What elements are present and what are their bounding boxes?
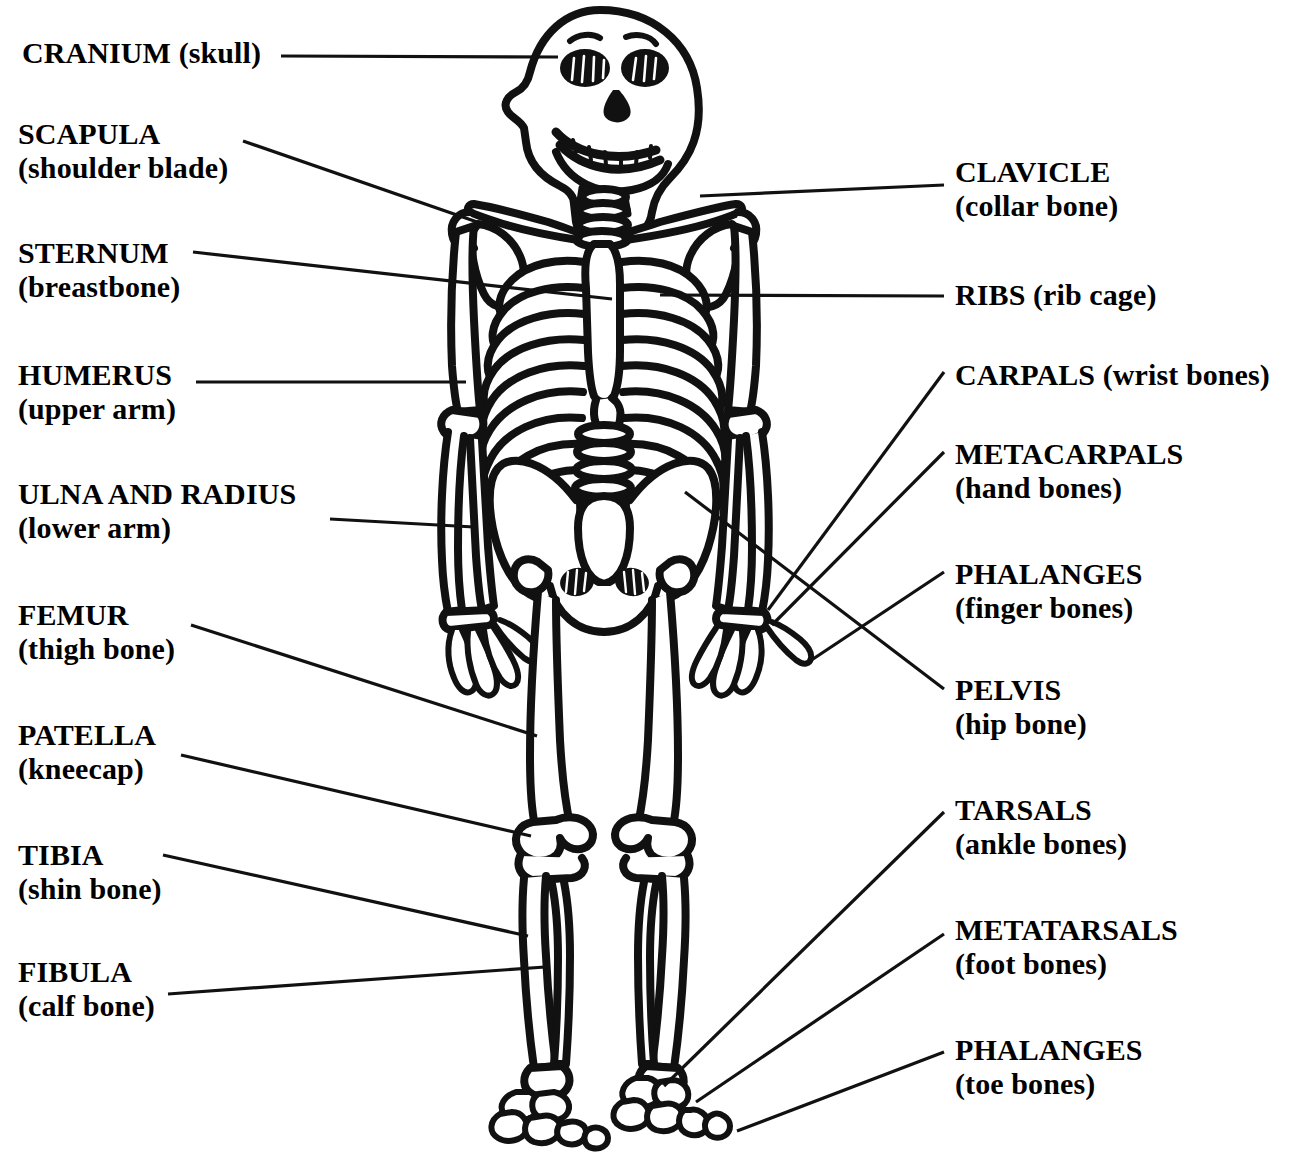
- label-common-ulna-radius: (lower arm): [18, 511, 296, 545]
- label-common-phalanges-fingers: (finger bones): [955, 591, 1143, 625]
- label-common-metatarsals: (foot bones): [955, 947, 1178, 981]
- label-humerus: HUMERUS(upper arm): [18, 358, 176, 425]
- label-common-tibia: (shin bone): [18, 872, 162, 906]
- leader-line-scapula: [243, 141, 480, 223]
- label-term-fibula: FIBULA: [18, 955, 155, 989]
- label-common-tarsals: (ankle bones): [955, 827, 1127, 861]
- label-common-cranium: (skull): [179, 36, 261, 69]
- label-term-metatarsals: METATARSALS: [955, 913, 1178, 947]
- label-common-phalanges-toes: (toe bones): [955, 1067, 1143, 1101]
- label-term-femur: FEMUR: [18, 598, 175, 632]
- label-common-scapula: (shoulder blade): [18, 151, 228, 185]
- label-clavicle: CLAVICLE(collar bone): [955, 155, 1118, 222]
- label-fibula: FIBULA(calf bone): [18, 955, 155, 1022]
- label-term-clavicle: CLAVICLE: [955, 155, 1118, 189]
- label-metacarpals: METACARPALS(hand bones): [955, 437, 1183, 504]
- label-term-ribs: RIBS (rib cage): [955, 278, 1156, 311]
- label-term-ulna-radius: ULNA AND RADIUS: [18, 477, 296, 511]
- label-term-cranium: CRANIUM: [22, 36, 171, 69]
- label-ribs: RIBS (rib cage): [955, 278, 1156, 312]
- leader-line-phalanges-toes: [737, 1052, 944, 1131]
- label-common-femur: (thigh bone): [18, 632, 175, 666]
- leader-line-clavicle: [700, 185, 944, 196]
- leader-line-tarsals: [664, 812, 944, 1086]
- label-phalanges-fingers: PHALANGES(finger bones): [955, 557, 1143, 624]
- label-common-patella: (kneecap): [18, 752, 156, 786]
- leader-line-tibia: [163, 855, 528, 936]
- label-common-clavicle: (collar bone): [955, 189, 1118, 223]
- leader-line-ribs: [660, 295, 944, 296]
- leader-line-cranium: [281, 56, 558, 57]
- label-term-metacarpals: METACARPALS: [955, 437, 1183, 471]
- label-tibia: TIBIA(shin bone): [18, 838, 162, 905]
- label-term-tarsals: TARSALS: [955, 793, 1127, 827]
- label-term-phalanges-toes: PHALANGES: [955, 1033, 1143, 1067]
- label-sternum: STERNUM(breastbone): [18, 236, 180, 303]
- label-term-scapula: SCAPULA: [18, 117, 228, 151]
- label-ulna-radius: ULNA AND RADIUS(lower arm): [18, 477, 296, 544]
- label-term-carpals: CARPALS (wrist bones): [955, 358, 1270, 391]
- label-tarsals: TARSALS(ankle bones): [955, 793, 1127, 860]
- label-term-sternum: STERNUM: [18, 236, 180, 270]
- label-pelvis: PELVIS(hip bone): [955, 673, 1087, 740]
- leader-line-phalanges-fingers: [807, 572, 944, 663]
- label-common-pelvis: (hip bone): [955, 707, 1087, 741]
- label-common-fibula: (calf bone): [18, 989, 155, 1023]
- skeleton-diagram-page: CRANIUM (skull)SCAPULA(shoulder blade)ST…: [0, 0, 1306, 1175]
- label-common-sternum: (breastbone): [18, 270, 180, 304]
- label-cranium: CRANIUM (skull): [22, 36, 261, 70]
- label-term-tibia: TIBIA: [18, 838, 162, 872]
- label-common-humerus: (upper arm): [18, 392, 176, 426]
- label-patella: PATELLA(kneecap): [18, 718, 156, 785]
- label-term-pelvis: PELVIS: [955, 673, 1087, 707]
- cervical-spine: [576, 188, 628, 247]
- label-term-humerus: HUMERUS: [18, 358, 176, 392]
- leader-line-metacarpals: [772, 452, 944, 625]
- label-term-patella: PATELLA: [18, 718, 156, 752]
- label-term-phalanges-fingers: PHALANGES: [955, 557, 1143, 591]
- leader-line-fibula: [168, 967, 545, 994]
- sternum-breastbone: [585, 244, 620, 434]
- label-metatarsals: METATARSALS(foot bones): [955, 913, 1178, 980]
- label-phalanges-toes: PHALANGES(toe bones): [955, 1033, 1143, 1100]
- label-common-metacarpals: (hand bones): [955, 471, 1183, 505]
- label-scapula: SCAPULA(shoulder blade): [18, 117, 228, 184]
- leader-line-patella: [181, 755, 531, 836]
- label-femur: FEMUR(thigh bone): [18, 598, 175, 665]
- label-carpals: CARPALS (wrist bones): [955, 358, 1270, 392]
